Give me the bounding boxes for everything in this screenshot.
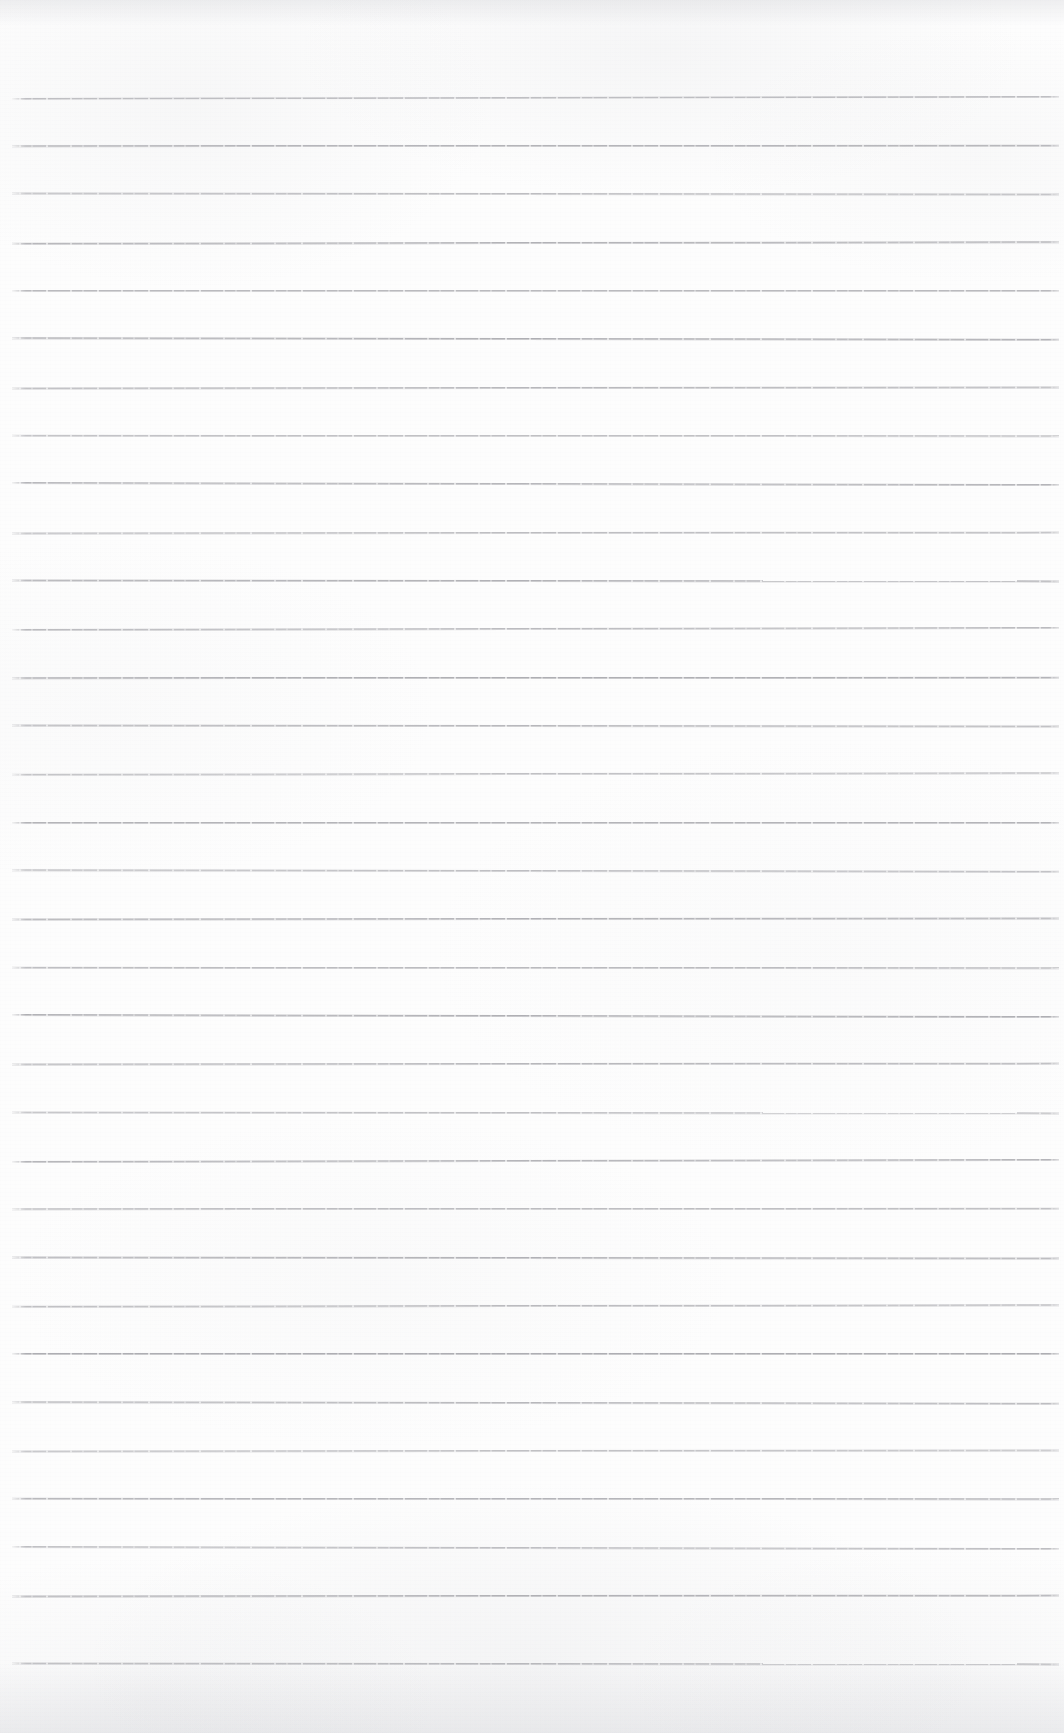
rule-line [12,1546,1059,1550]
rule-line-edge-fade [12,1546,1059,1550]
rule-line [12,1595,1059,1598]
rule-line-edge-fade [12,1304,1059,1308]
rule-line [12,917,1059,920]
scanned-page [0,0,1064,1733]
rule-line-edge-fade [12,627,1059,631]
rule-line-edge-fade [12,1112,1059,1115]
rule-line [12,967,1059,969]
rule-line [12,482,1059,486]
rule-line [12,386,1059,389]
rule-line [12,822,1059,824]
rule-line-edge-fade [12,1256,1059,1259]
rule-line-edge-fade [12,1159,1059,1163]
rule-line-edge-fade [12,290,1059,292]
rule-line [12,435,1059,437]
rule-line-edge-fade [12,435,1059,437]
rule-line [12,1063,1059,1066]
rule-line-edge-fade [12,337,1059,341]
rule-line [12,1304,1059,1308]
rule-line-edge-fade [12,1353,1059,1355]
rule-line [12,1256,1059,1259]
ruled-lines-layer [0,0,1064,1733]
rule-line-edge-fade [12,677,1059,679]
rule-line-edge-fade [12,145,1059,147]
rule-line [12,532,1059,535]
rule-line-edge-fade [12,1663,1059,1666]
rule-line-edge-fade [12,772,1059,776]
rule-line-edge-fade [12,580,1059,583]
rule-line-edge-fade [12,386,1059,389]
rule-line [12,677,1059,679]
rule-line [12,772,1059,776]
rule-line [12,724,1059,727]
rule-line [12,96,1059,100]
rule-line [12,1112,1059,1115]
rule-line-edge-fade [12,1014,1059,1018]
rule-line [12,1014,1059,1018]
rule-line [12,869,1059,873]
rule-line-edge-fade [12,724,1059,727]
rule-line-edge-fade [12,192,1059,195]
rule-line-edge-fade [12,96,1059,100]
rule-line [12,627,1059,631]
rule-line-edge-fade [12,869,1059,873]
rule-line [12,1449,1059,1452]
rule-line [12,337,1059,341]
rule-line [12,290,1059,292]
rule-line-edge-fade [12,967,1059,969]
rule-line [12,1208,1059,1210]
rule-line-edge-fade [12,1401,1059,1405]
rule-line-edge-fade [12,917,1059,920]
rule-line [12,145,1059,147]
rule-line-edge-fade [12,532,1059,535]
rule-line-edge-fade [12,1449,1059,1452]
rule-line-edge-fade [12,482,1059,486]
rule-line-edge-fade [12,1063,1059,1066]
rule-line [12,192,1059,195]
rule-line [12,241,1059,245]
rule-line-edge-fade [12,1595,1059,1598]
rule-line-edge-fade [12,1498,1059,1500]
rule-line-edge-fade [12,241,1059,245]
rule-line-edge-fade [12,1208,1059,1210]
rule-line [12,1401,1059,1405]
rule-line [12,1663,1059,1666]
rule-line [12,1159,1059,1163]
rule-line [12,1353,1059,1355]
rule-line-edge-fade [12,822,1059,824]
rule-line [12,580,1059,583]
rule-line [12,1498,1059,1500]
